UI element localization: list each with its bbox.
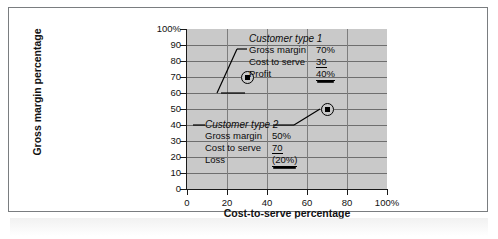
callout-1-title: Customer type 1 xyxy=(249,33,335,44)
callout-1-value-gross-margin: 70% xyxy=(316,44,335,55)
y-axis-tick-label: 70 xyxy=(147,72,181,82)
x-axis-tick xyxy=(347,189,348,195)
data-point-customer-type-2 xyxy=(321,103,334,116)
y-axis-tick xyxy=(180,189,187,190)
x-axis-tick xyxy=(187,189,188,195)
callout-2-label-loss: Loss xyxy=(205,154,272,166)
callout-2-row-gross-margin: Gross margin 50% xyxy=(205,130,297,141)
y-axis-tick xyxy=(180,61,187,62)
callout-1-label-profit: Profit xyxy=(249,68,316,80)
gridline-horizontal xyxy=(187,109,387,110)
y-axis-tick xyxy=(180,77,187,78)
y-axis-tick xyxy=(180,141,187,142)
callout-2-row-cost-to-serve: Cost to serve 70 xyxy=(205,142,297,154)
x-axis-tick xyxy=(267,189,268,195)
y-axis-tick xyxy=(180,125,187,126)
scan-artifact xyxy=(10,218,488,236)
callout-2-label-cost-to-serve: Cost to serve xyxy=(205,142,272,154)
y-axis-tick-label: 60 xyxy=(147,88,181,98)
callout-2-value-loss: (20%) xyxy=(272,154,297,166)
y-axis-tick-label: 40 xyxy=(147,120,181,130)
y-axis-tick-label: 10 xyxy=(147,168,181,178)
callout-customer-type-2: Customer type 2 Gross margin 50% Cost to… xyxy=(205,119,297,167)
y-axis-tick-label: 90 xyxy=(147,40,181,50)
callout-1-row-gross-margin: Gross margin 70% xyxy=(249,44,335,55)
callout-1-row-cost-to-serve: Cost to serve 30 xyxy=(249,56,335,68)
gridline-horizontal xyxy=(187,173,387,174)
callout-customer-type-1: Customer type 1 Gross margin 70% Cost to… xyxy=(249,33,335,81)
gridline-horizontal xyxy=(187,93,387,94)
y-axis-tick-label: 50 xyxy=(147,104,181,114)
x-axis-line xyxy=(186,189,388,190)
y-axis-title: Gross margin percentage xyxy=(31,12,43,172)
callout-1-value-profit: 40% xyxy=(316,68,335,80)
x-axis-tick xyxy=(227,189,228,195)
y-axis-tick xyxy=(180,45,187,46)
callout-1-value-cost-to-serve: 30 xyxy=(316,56,327,68)
figure-frame: Gross margin percentage 0102030405060708… xyxy=(8,7,488,212)
callout-2-title: Customer type 2 xyxy=(205,119,297,130)
y-axis-tick-labels: 0102030405060708090100% xyxy=(143,8,181,211)
x-axis-tick xyxy=(387,189,388,195)
gridline-vertical xyxy=(347,29,348,189)
callout-2-value-gross-margin: 50% xyxy=(272,130,291,141)
x-axis-title: Cost-to-serve percentage xyxy=(187,207,387,219)
y-axis-tick-label: 30 xyxy=(147,136,181,146)
y-axis-tick-label: 100% xyxy=(147,24,181,34)
y-axis-tick xyxy=(180,173,187,174)
callout-2-label-gross-margin: Gross margin xyxy=(205,130,272,141)
y-axis-tick-label: 0 xyxy=(147,184,181,194)
y-axis-tick xyxy=(180,109,187,110)
y-axis-tick-label: 80 xyxy=(147,56,181,66)
x-axis-tick xyxy=(307,189,308,195)
y-axis-tick xyxy=(180,29,187,30)
y-axis-tick-label: 20 xyxy=(147,152,181,162)
y-axis-tick xyxy=(180,157,187,158)
callout-2-row-loss: Loss (20%) xyxy=(205,154,297,166)
callout-2-value-cost-to-serve: 70 xyxy=(272,142,283,154)
callout-1-row-profit: Profit 40% xyxy=(249,68,335,80)
callout-1-label-gross-margin: Gross margin xyxy=(249,44,316,55)
y-axis-tick xyxy=(180,93,187,94)
callout-1-label-cost-to-serve: Cost to serve xyxy=(249,56,316,68)
